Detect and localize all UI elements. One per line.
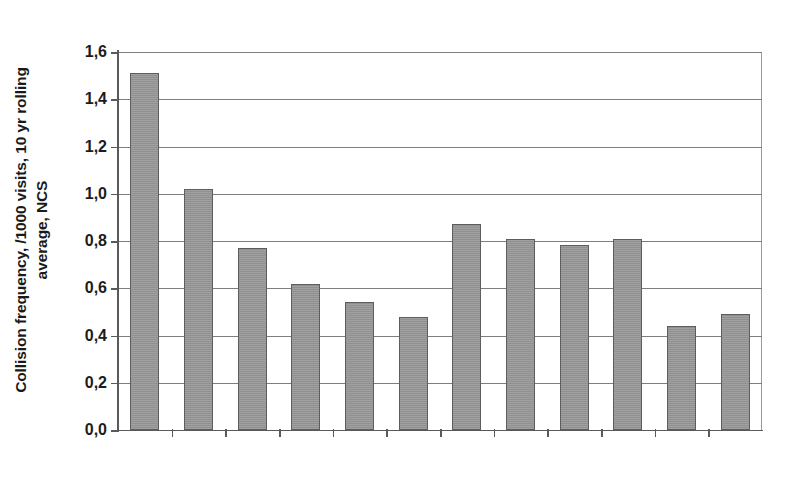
gridline xyxy=(118,383,762,384)
y-tick-mark xyxy=(111,430,119,432)
x-tick-mark xyxy=(601,429,603,437)
x-tick-mark xyxy=(386,429,388,437)
bar xyxy=(721,314,750,430)
x-tick-mark xyxy=(655,429,657,437)
gridline xyxy=(118,147,762,148)
x-tick-mark xyxy=(279,429,281,437)
bar xyxy=(613,239,642,430)
y-axis-title-line-1: Collision frequency, /1000 visits, 10 yr… xyxy=(12,67,29,393)
bar xyxy=(399,317,428,430)
gridline xyxy=(118,99,762,100)
y-tick-label: 0,6 xyxy=(85,279,107,297)
bar xyxy=(560,245,589,430)
bar xyxy=(184,189,213,430)
x-tick-mark xyxy=(494,429,496,437)
gridline xyxy=(118,52,762,53)
x-tick-mark xyxy=(440,429,442,437)
x-tick-mark xyxy=(172,429,174,437)
x-tick-mark xyxy=(547,429,549,437)
y-tick-mark xyxy=(111,241,119,243)
y-tick-label: 1,2 xyxy=(85,138,107,156)
bar xyxy=(130,73,159,430)
bar-chart-figure: Collision frequency, /1000 visits, 10 yr… xyxy=(0,0,794,488)
y-tick-label: 1,0 xyxy=(85,185,107,203)
gridline xyxy=(118,241,762,242)
y-tick-mark xyxy=(111,147,119,149)
y-tick-mark xyxy=(111,383,119,385)
y-tick-mark xyxy=(111,99,119,101)
x-tick-mark xyxy=(333,429,335,437)
gridline xyxy=(118,194,762,195)
y-axis-title: Collision frequency, /1000 visits, 10 yr… xyxy=(0,0,62,460)
y-tick-label: 0,8 xyxy=(85,232,107,250)
bar xyxy=(238,248,267,430)
y-tick-mark xyxy=(111,336,119,338)
y-tick-mark xyxy=(111,194,119,196)
y-tick-label: 1,4 xyxy=(85,90,107,108)
gridline xyxy=(118,288,762,289)
gridline xyxy=(118,336,762,337)
x-tick-mark xyxy=(708,429,710,437)
bar xyxy=(667,326,696,430)
y-tick-mark xyxy=(111,288,119,290)
y-tick-label: 0,2 xyxy=(85,374,107,392)
bar xyxy=(291,284,320,430)
y-tick-label: 1,6 xyxy=(85,43,107,61)
bar xyxy=(345,302,374,430)
y-tick-label: 0,4 xyxy=(85,327,107,345)
bar xyxy=(506,239,535,430)
y-axis-title-line-2: average, NCS xyxy=(31,67,52,393)
y-tick-mark xyxy=(111,52,119,54)
bar xyxy=(452,224,481,430)
plot-area: 0,00,20,40,60,81,01,21,41,6 200020012002… xyxy=(118,52,762,430)
y-tick-label: 0,0 xyxy=(85,421,107,439)
x-tick-mark xyxy=(225,429,227,437)
